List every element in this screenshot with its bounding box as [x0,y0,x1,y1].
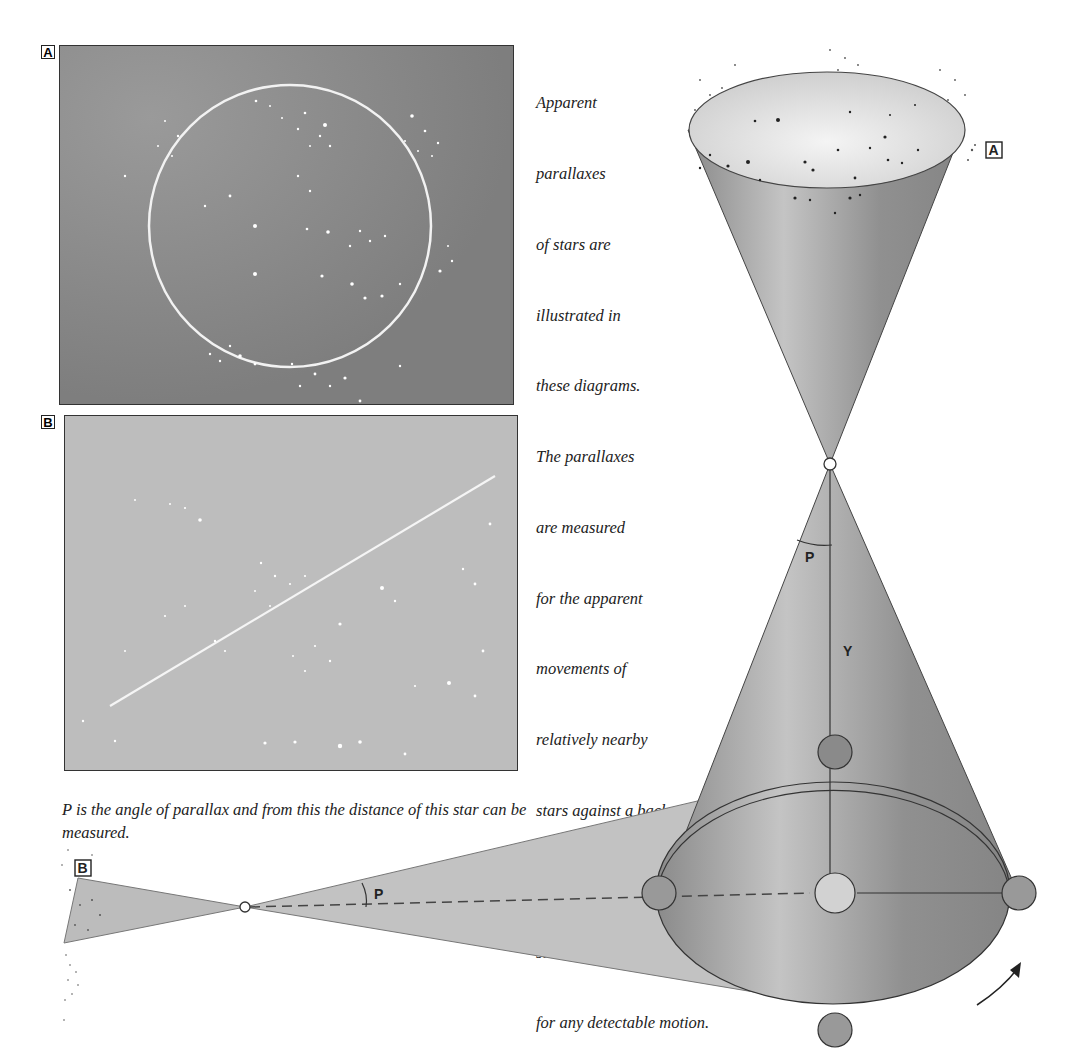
caption-line: for any detectable motion. [536,1011,715,1035]
orbit-direction-arrow [977,968,1018,1005]
description-caption: Apparent parallaxes of stars are illustr… [536,44,715,1052]
target-star-marker [824,458,836,470]
caption-line: Apparent [536,91,715,115]
angle-label-side: P [374,886,383,902]
field-stars-top [694,49,976,161]
caption-line: these diagrams. [536,374,715,398]
panel-b-label: B [41,415,55,429]
starfield-a-graphic [60,46,514,405]
caption-line: movements of [536,657,715,681]
parallax-angle-caption: P is the angle of parallax and from this… [62,798,542,844]
cone-stars [699,104,919,214]
sky-cone [688,130,962,464]
cone-label-a: A [989,142,999,158]
circular-path [149,85,431,367]
caption-line: parallaxes [536,162,715,186]
panel-a-label: A [41,45,55,59]
caption-line: stars which are too distant [536,941,715,965]
parallax-angle-arc-side [362,883,367,907]
panel-b-starfield [64,415,518,771]
panel-a-starfield [59,45,514,405]
caption-line: of stars are [536,233,715,257]
axis-label-y: Y [843,643,853,659]
caption-line: are measured [536,516,715,540]
caption-line: stars against a back- [536,799,715,823]
caption-line: illustrated in [536,304,715,328]
caption-line: for the apparent [536,587,715,611]
side-star-marker [240,902,250,912]
caption-line: relatively nearby [536,728,715,752]
sky-cone-opening [689,72,965,188]
starfield-b-graphic [65,416,518,771]
angle-label-top: P [805,549,814,565]
parallax-angle-arc-top [797,540,832,545]
side-star-cone [61,849,245,1021]
arrowhead-icon [1010,962,1021,978]
stars-b [82,499,492,755]
straight-line-path [110,476,495,706]
orbit-cone [662,464,1018,893]
caption-line: The parallaxes [536,445,715,469]
caption-line: ground of more remote [536,870,715,894]
dashed-baseline [250,893,810,907]
cone-label-b: B [78,860,88,876]
